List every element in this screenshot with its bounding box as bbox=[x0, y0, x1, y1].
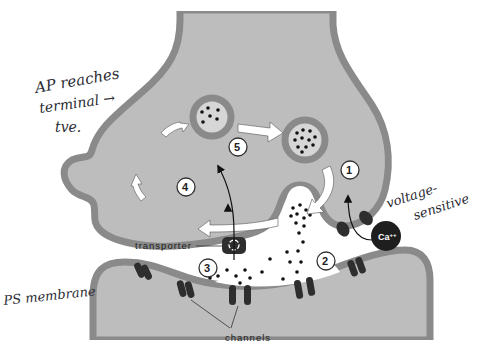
svg-text:channels: channels bbox=[225, 332, 271, 343]
svg-text:5: 5 bbox=[234, 141, 240, 153]
svg-text:PS membrane: PS membrane bbox=[2, 283, 97, 308]
svg-text:3: 3 bbox=[204, 262, 210, 274]
svg-text:4: 4 bbox=[182, 181, 189, 193]
svg-text:2: 2 bbox=[322, 255, 328, 267]
calcium-ion: Ca++ bbox=[371, 221, 401, 251]
step-5: 5 bbox=[229, 138, 247, 156]
step-4: 4 bbox=[177, 178, 195, 196]
vesicle-recycled bbox=[193, 98, 231, 136]
handwritten-ps-membrane-note: PS membrane bbox=[2, 283, 97, 308]
calcium-charge: ++ bbox=[390, 232, 398, 238]
svg-text:1: 1 bbox=[346, 164, 352, 176]
vesicle-filled bbox=[285, 120, 325, 160]
synapse-diagram: Ca++ 1 2 3 4 5 bbox=[0, 0, 484, 356]
step-2: 2 bbox=[317, 252, 335, 270]
step-3: 3 bbox=[199, 259, 217, 277]
svg-text:tve.: tve. bbox=[55, 119, 81, 135]
step-1: 1 bbox=[341, 161, 359, 179]
handwritten-voltage-note: voltage- sensitive bbox=[384, 180, 471, 223]
svg-text:transporter: transporter bbox=[135, 240, 192, 251]
